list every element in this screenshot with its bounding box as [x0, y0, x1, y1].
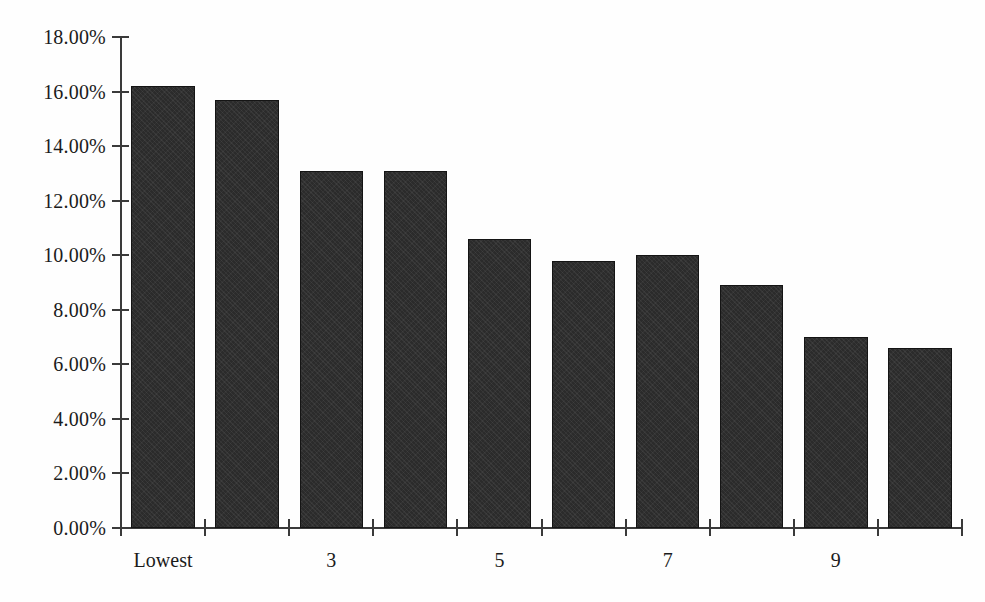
bar	[131, 86, 194, 528]
bar	[300, 171, 363, 528]
bar-series	[0, 0, 985, 602]
bar	[636, 255, 699, 528]
bar	[384, 171, 447, 528]
bar-chart: 0.00%2.00%4.00%6.00%8.00%10.00%12.00%14.…	[0, 0, 985, 602]
bar	[552, 261, 615, 528]
bar	[720, 285, 783, 528]
bar	[888, 348, 951, 528]
bar	[468, 239, 531, 528]
bar	[215, 100, 278, 528]
bar	[804, 337, 867, 528]
